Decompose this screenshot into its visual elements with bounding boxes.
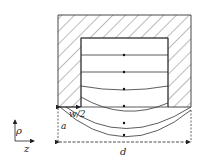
- half-width-label: w/2: [69, 109, 86, 119]
- radius-label: a: [61, 121, 66, 131]
- rho-axis-label: ρ: [15, 125, 22, 136]
- conductor-wall: [58, 15, 191, 107]
- depth-label: d: [120, 146, 126, 157]
- cavity-diagram: w/2 a d ρ z: [0, 0, 202, 164]
- field-line-markers: [123, 54, 125, 136]
- z-axis-label: z: [23, 143, 30, 154]
